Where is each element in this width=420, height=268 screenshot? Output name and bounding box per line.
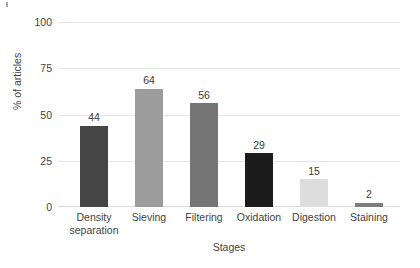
y-axis-title: % of articles [11,53,23,110]
x-axis-category-staining: Staining [331,211,407,224]
bar-staining[interactable] [355,203,383,207]
bar-value-digestion: 15 [308,165,320,177]
bar-group-filtering: 56 [176,22,232,207]
bar-oxidation[interactable] [245,153,273,207]
plot-area: % of articles 44 64 56 29 [58,22,400,207]
bar-value-filtering: 56 [198,89,210,101]
bar-group-sieving: 64 [121,22,177,207]
bar-series: 44 64 56 29 15 2 [58,22,400,207]
y-axis-tick-label-50: 50 [12,109,52,121]
bar-group-staining: 2 [341,22,397,207]
bar-group-oxidation: 29 [231,22,287,207]
scan-artifact-speck [6,2,8,7]
y-axis-tick-label-0: 0 [12,201,52,213]
y-axis-tick-label-25: 25 [12,155,52,167]
bar-value-sieving: 64 [143,74,155,86]
bar-value-density-separation: 44 [88,111,100,123]
bar-value-oxidation: 29 [253,139,265,151]
bar-sieving[interactable] [135,89,163,207]
bar-density-separation[interactable] [80,126,108,207]
bar-digestion[interactable] [300,179,328,207]
bar-value-staining: 2 [366,188,372,200]
bar-chart: 100 75 50 25 0 % of articles 44 64 56 [0,0,420,268]
bar-filtering[interactable] [190,103,218,207]
y-axis-tick-label-100: 100 [12,16,52,28]
bar-group-digestion: 15 [286,22,342,207]
x-axis-title-text: Stages [213,241,246,253]
x-axis-title: Stages [0,241,420,253]
bar-group-density-separation: 44 [66,22,122,207]
